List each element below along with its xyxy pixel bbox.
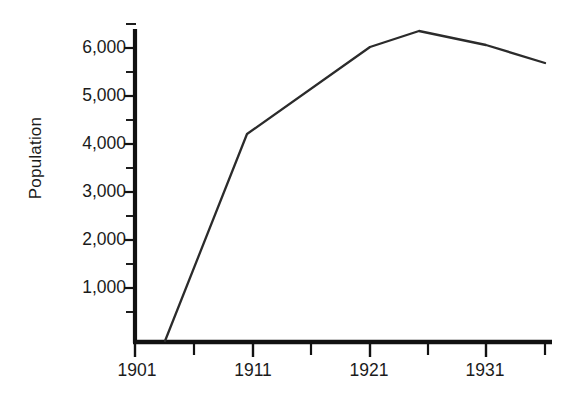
population-line-chart: 6,000 5,000 4,000 3,000 2,000 1,000 1901… [0,0,563,401]
x-axis-tick-labels: 1901 1911 1921 1931 [0,0,563,401]
x-tick-label-1911: 1911 [213,360,293,381]
x-tick-label-1921: 1921 [329,360,409,381]
y-axis-title: Population [26,78,46,238]
x-tick-label-1901: 1901 [97,360,177,381]
x-tick-label-1931: 1931 [445,360,525,381]
